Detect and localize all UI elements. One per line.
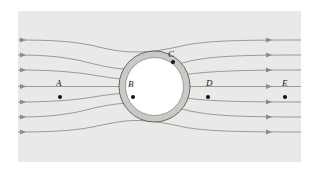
arrow-right-3	[266, 68, 272, 73]
point-label-b: B	[128, 80, 134, 89]
arrow-left-2	[20, 53, 26, 58]
point-label-a: A	[56, 79, 62, 88]
point-dot-b	[131, 95, 135, 99]
arrow-left-7	[20, 130, 26, 135]
field-line-1	[18, 40, 301, 52]
arrow-right-2	[266, 53, 272, 58]
arrow-left-4	[20, 84, 26, 89]
arrow-right-7	[266, 130, 272, 135]
point-label-d: D	[206, 79, 213, 88]
arrow-right-1	[266, 38, 272, 43]
arrow-left-6	[20, 115, 26, 120]
point-dot-a	[58, 95, 62, 99]
arrow-right-6	[266, 115, 272, 120]
field-line-7	[18, 121, 301, 133]
arrow-left-3	[20, 68, 26, 73]
point-dot-c	[171, 60, 175, 64]
arrow-left-5	[20, 100, 26, 105]
point-dot-d	[206, 95, 210, 99]
arrow-right-4	[266, 84, 272, 89]
diagram-panel: A B C D E	[18, 11, 301, 162]
arrow-right-5	[266, 100, 272, 105]
field-line-figure: A B C D E	[0, 0, 319, 178]
arrow-left-1	[20, 38, 26, 43]
point-dot-e	[283, 95, 287, 99]
shell-inner-circle	[126, 58, 184, 116]
point-label-c: C	[168, 50, 174, 59]
point-label-e: E	[282, 79, 288, 88]
